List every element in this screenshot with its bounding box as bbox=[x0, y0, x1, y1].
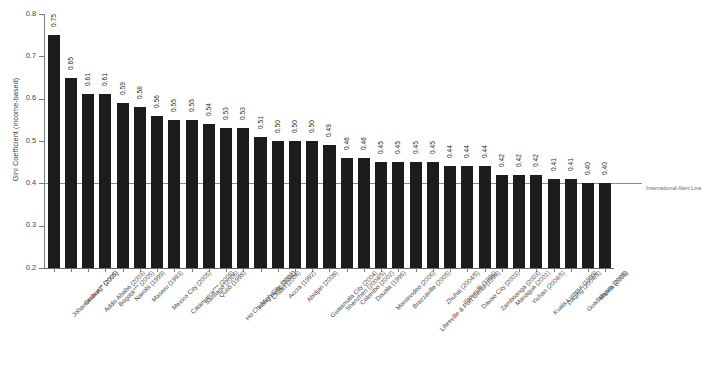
bar-slot[interactable]: 0.44 bbox=[459, 14, 476, 268]
bar[interactable] bbox=[461, 166, 473, 268]
bar-slot[interactable]: 0.45 bbox=[373, 14, 390, 268]
bar-slot[interactable]: 0.59 bbox=[114, 14, 131, 268]
bar-value-label: 0.56 bbox=[153, 95, 160, 108]
bar-slot[interactable]: 0.46 bbox=[355, 14, 372, 268]
bar-slot[interactable]: 0.45 bbox=[407, 14, 424, 268]
y-axis-tick-label: 0.7 bbox=[26, 51, 36, 60]
bar-series: 0.750.650.610.610.590.580.560.550.550.54… bbox=[45, 14, 614, 268]
y-axis-tick-label: 0.6 bbox=[26, 93, 36, 102]
bar[interactable] bbox=[323, 145, 335, 268]
y-axis-tick: 0.6 bbox=[39, 99, 44, 100]
bar-slot[interactable]: 0.44 bbox=[442, 14, 459, 268]
bar[interactable] bbox=[375, 162, 387, 268]
bar[interactable] bbox=[272, 141, 284, 268]
bar-slot[interactable]: 0.45 bbox=[424, 14, 441, 268]
bar-value-label: 0.50 bbox=[274, 120, 281, 133]
bar[interactable] bbox=[427, 162, 439, 268]
bar-value-label: 0.61 bbox=[102, 74, 109, 87]
bar-slot[interactable]: 0.56 bbox=[148, 14, 165, 268]
bar-value-label: 0.58 bbox=[136, 86, 143, 99]
bar[interactable] bbox=[289, 141, 301, 268]
bar[interactable] bbox=[392, 162, 404, 268]
y-axis-tick: 0.2 bbox=[39, 268, 44, 269]
bar[interactable] bbox=[151, 116, 163, 268]
bar-slot[interactable]: 0.75 bbox=[45, 14, 62, 268]
bar[interactable] bbox=[237, 128, 249, 268]
bar[interactable] bbox=[530, 175, 542, 268]
bar[interactable] bbox=[186, 120, 198, 268]
international-alert-line-label: International Alert Line bbox=[646, 185, 702, 192]
bar-value-label: 0.51 bbox=[257, 116, 264, 129]
bar[interactable] bbox=[117, 103, 129, 268]
bar-slot[interactable]: 0.41 bbox=[562, 14, 579, 268]
bar-slot[interactable]: 0.44 bbox=[476, 14, 493, 268]
bar[interactable] bbox=[65, 78, 77, 269]
bar[interactable] bbox=[410, 162, 422, 268]
bar-value-label: 0.55 bbox=[188, 99, 195, 112]
bar-slot[interactable]: 0.58 bbox=[131, 14, 148, 268]
bar[interactable] bbox=[134, 107, 146, 268]
bar[interactable] bbox=[341, 158, 353, 268]
bar[interactable] bbox=[220, 128, 232, 268]
bar-value-label: 0.40 bbox=[602, 163, 609, 176]
bar-value-label: 0.42 bbox=[515, 154, 522, 167]
bar-slot[interactable]: 0.65 bbox=[62, 14, 79, 268]
bar-slot[interactable]: 0.40 bbox=[597, 14, 614, 268]
bar-slot[interactable]: 0.51 bbox=[252, 14, 269, 268]
bar[interactable] bbox=[599, 183, 611, 268]
bar-slot[interactable]: 0.49 bbox=[321, 14, 338, 268]
bar[interactable] bbox=[203, 124, 215, 268]
y-axis-tick: 0.5 bbox=[39, 141, 44, 142]
bar-slot[interactable]: 0.42 bbox=[528, 14, 545, 268]
bar-value-label: 0.75 bbox=[50, 14, 57, 27]
bar-slot[interactable]: 0.53 bbox=[235, 14, 252, 268]
bar[interactable] bbox=[479, 166, 491, 268]
bar-value-label: 0.45 bbox=[429, 141, 436, 154]
bar[interactable] bbox=[48, 35, 60, 268]
bar-slot[interactable]: 0.42 bbox=[493, 14, 510, 268]
bar[interactable] bbox=[513, 175, 525, 268]
y-axis-tick-label: 0.4 bbox=[26, 178, 36, 187]
bar-value-label: 0.50 bbox=[291, 120, 298, 133]
bar-slot[interactable]: 0.42 bbox=[511, 14, 528, 268]
bar-value-label: 0.46 bbox=[343, 137, 350, 150]
y-axis-tick-label: 0.5 bbox=[26, 136, 36, 145]
bar[interactable] bbox=[496, 175, 508, 268]
y-axis-tick: 0.3 bbox=[39, 226, 44, 227]
bar[interactable] bbox=[548, 179, 560, 268]
bar[interactable] bbox=[565, 179, 577, 268]
y-axis-tick-label: 0.3 bbox=[26, 220, 36, 229]
bar[interactable] bbox=[82, 94, 94, 268]
bar[interactable] bbox=[306, 141, 318, 268]
bar-slot[interactable]: 0.46 bbox=[338, 14, 355, 268]
bar-slot[interactable]: 0.53 bbox=[217, 14, 234, 268]
bar-slot[interactable]: 0.50 bbox=[269, 14, 286, 268]
bar-slot[interactable]: 0.41 bbox=[545, 14, 562, 268]
bar[interactable] bbox=[99, 94, 111, 268]
bar-slot[interactable]: 0.45 bbox=[390, 14, 407, 268]
bar[interactable] bbox=[582, 183, 594, 268]
bar-value-label: 0.50 bbox=[308, 120, 315, 133]
bar-slot[interactable]: 0.54 bbox=[200, 14, 217, 268]
bar-value-label: 0.54 bbox=[205, 103, 212, 116]
bar-value-label: 0.53 bbox=[239, 107, 246, 120]
bar[interactable] bbox=[168, 120, 180, 268]
bar-value-label: 0.53 bbox=[222, 107, 229, 120]
bar-slot[interactable]: 0.61 bbox=[97, 14, 114, 268]
bar-slot[interactable]: 0.55 bbox=[166, 14, 183, 268]
bar-slot[interactable]: 0.50 bbox=[286, 14, 303, 268]
bar[interactable] bbox=[444, 166, 456, 268]
bar-slot[interactable]: 0.40 bbox=[580, 14, 597, 268]
bar-value-label: 0.42 bbox=[498, 154, 505, 167]
bar[interactable] bbox=[358, 158, 370, 268]
bar-value-label: 0.46 bbox=[360, 137, 367, 150]
bar-slot[interactable]: 0.50 bbox=[304, 14, 321, 268]
bar-value-label: 0.44 bbox=[481, 146, 488, 159]
y-axis-title: Gini Coefficient (income-based) bbox=[11, 30, 20, 230]
bar-slot[interactable]: 0.61 bbox=[79, 14, 96, 268]
bar[interactable] bbox=[254, 137, 266, 268]
bar-value-label: 0.40 bbox=[584, 163, 591, 176]
bar-value-label: 0.61 bbox=[84, 74, 91, 87]
bar-slot[interactable]: 0.55 bbox=[183, 14, 200, 268]
bar-value-label: 0.59 bbox=[119, 82, 126, 95]
